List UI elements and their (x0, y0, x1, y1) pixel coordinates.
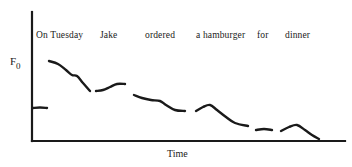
y-axis-label-subscript: 0 (16, 62, 21, 71)
f0-segment-dinner (281, 125, 319, 139)
f0-segment-ordered (134, 95, 185, 111)
figure-canvas (0, 0, 352, 167)
f0-segment-a-hamburger (196, 105, 248, 126)
f0-segment-for (256, 129, 272, 130)
utterance-word-a-hamburger: a hamburger (196, 30, 245, 41)
f0-contour-group (33, 61, 319, 139)
x-axis-label: Time (167, 148, 188, 159)
f0-segment-jake (96, 84, 125, 91)
utterance-word-on-tuesday: On Tuesday (36, 30, 83, 41)
utterance-word-dinner: dinner (285, 30, 310, 41)
f0-segment-on (33, 108, 47, 109)
f0-declination-figure: F 0 Time On TuesdayJakeordereda hamburge… (0, 0, 352, 167)
y-axis-label: F 0 (10, 56, 32, 80)
utterance-word-for: for (257, 30, 269, 41)
f0-segment-tuesday (49, 61, 90, 91)
utterance-word-ordered: ordered (145, 30, 175, 41)
utterance-word-jake: Jake (100, 30, 117, 41)
